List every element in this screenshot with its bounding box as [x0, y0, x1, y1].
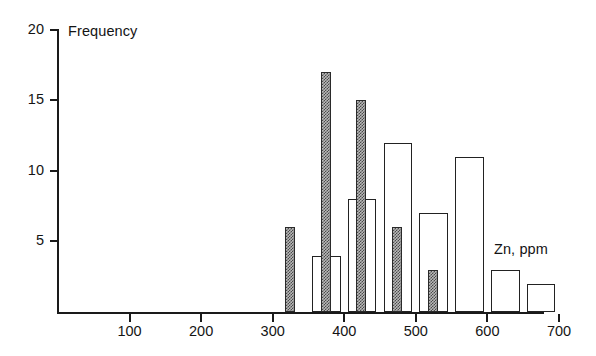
x-axis-title: Zn, ppm [494, 241, 548, 257]
histogram-bar-shaded [392, 227, 402, 312]
y-tick-label: 20 [14, 21, 44, 37]
x-tick-label: 300 [250, 323, 296, 339]
x-tick-label: 100 [107, 323, 153, 339]
histogram-chart: Frequency Zn, ppm 5101520 10020030040050… [0, 0, 596, 356]
x-tick-mark [272, 314, 274, 322]
x-tick-mark [129, 314, 131, 322]
histogram-bar-open [527, 284, 556, 312]
x-tick-label: 700 [536, 323, 582, 339]
y-tick-mark [50, 99, 57, 101]
y-axis-title: Frequency [68, 23, 137, 39]
y-tick-label: 10 [14, 162, 44, 178]
x-tick-mark [486, 314, 488, 322]
histogram-bar-open [455, 157, 484, 312]
y-tick-label: 5 [14, 232, 44, 248]
histogram-bar-shaded [285, 227, 295, 312]
x-tick-mark [200, 314, 202, 322]
y-tick-label: 15 [14, 91, 44, 107]
x-tick-label: 400 [321, 323, 367, 339]
histogram-bar-shaded [321, 72, 331, 312]
y-tick-mark [50, 240, 57, 242]
x-tick-mark [415, 314, 417, 322]
x-tick-label: 500 [393, 323, 439, 339]
x-tick-mark [558, 314, 560, 322]
y-tick-mark [50, 29, 57, 31]
histogram-bar-shaded [428, 270, 438, 312]
x-tick-label: 600 [464, 323, 510, 339]
histogram-bar-open [491, 270, 520, 312]
x-tick-mark [343, 314, 345, 322]
y-axis-line [57, 29, 59, 314]
histogram-bar-shaded [356, 100, 366, 312]
y-tick-mark [50, 170, 57, 172]
x-tick-label: 200 [178, 323, 224, 339]
